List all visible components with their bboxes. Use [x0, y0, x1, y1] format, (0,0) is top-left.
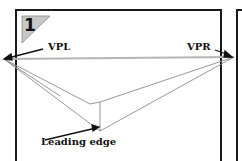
vpr-label: VPR [187, 41, 211, 52]
vpl-label: VPL [48, 41, 70, 52]
construction-lines [4, 57, 234, 131]
adjacent-frame [237, 10, 242, 161]
step-number: 1 [24, 15, 36, 35]
label-arrows [4, 49, 232, 140]
leading-edge-label: Leading edge [41, 136, 116, 147]
perspective-diagram [0, 0, 242, 161]
horizon-line [4, 57, 234, 59]
